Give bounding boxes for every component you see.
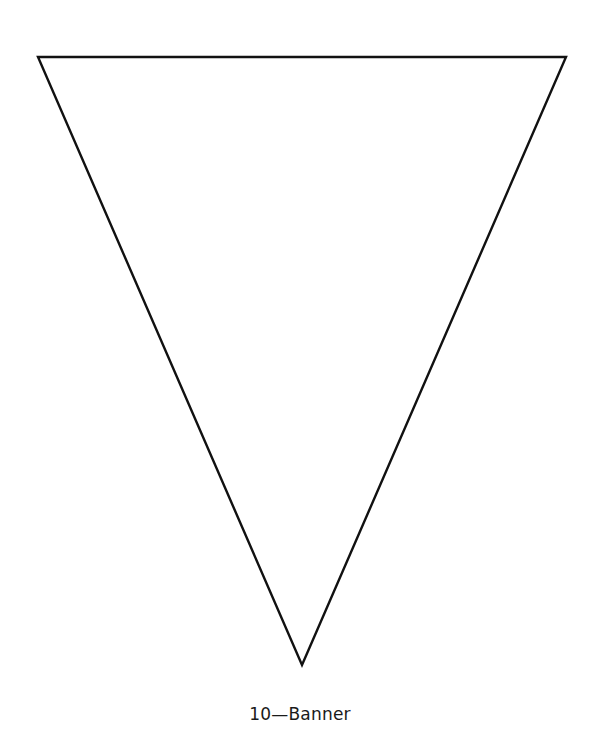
banner-template-canvas <box>0 0 600 750</box>
figure-caption: 10—Banner <box>0 704 600 724</box>
pennant-triangle-outline <box>38 57 566 665</box>
